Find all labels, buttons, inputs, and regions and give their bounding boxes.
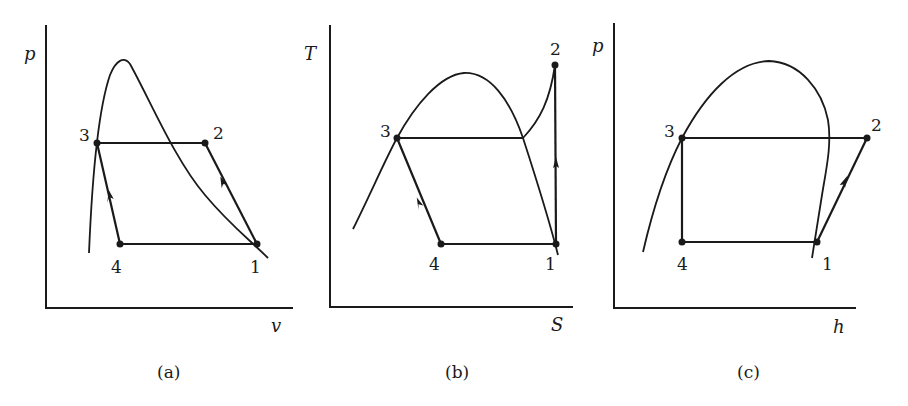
panel-a-point-4 xyxy=(117,241,124,248)
panel-b-point-1 xyxy=(553,241,560,248)
panel-a-label-2: 2 xyxy=(213,123,224,143)
panel-a-y-axis-label: p xyxy=(24,43,36,64)
panel-c-line-1-2 xyxy=(817,138,867,242)
panel-a-label-3: 3 xyxy=(79,125,90,145)
panel-c-y-axis-label: p xyxy=(592,35,604,56)
panel-b-label-1: 1 xyxy=(545,254,556,274)
panel-b-point-2 xyxy=(552,62,559,69)
panel-a-line-1-2 xyxy=(205,143,257,244)
panel-c-point-4 xyxy=(679,239,686,246)
panel-a-label-4: 4 xyxy=(111,257,122,277)
panel-a-pv-diagram: p v 3 2 4 1 (a) xyxy=(24,25,293,382)
panel-b-superheat-curve xyxy=(523,65,555,138)
panel-c-x-axis-label: h xyxy=(833,316,845,337)
panel-c-point-1 xyxy=(814,239,821,246)
panel-a-caption: (a) xyxy=(157,362,180,382)
panel-a-label-1: 1 xyxy=(250,257,261,277)
panel-b-label-2: 2 xyxy=(550,39,561,59)
panel-c-label-1: 1 xyxy=(822,254,833,274)
panel-b-saturation-dome xyxy=(353,73,558,255)
refrigeration-cycle-diagrams: p v 3 2 4 1 (a) T S xyxy=(0,0,908,406)
panel-a-x-axis-label: v xyxy=(271,315,281,336)
panel-c-label-2: 2 xyxy=(871,115,882,135)
panel-b-x-axis-label: S xyxy=(551,314,563,335)
panel-b-point-4 xyxy=(438,241,445,248)
panel-c-label-4: 4 xyxy=(677,254,688,274)
panel-b-line-3-4 xyxy=(397,138,441,244)
panel-a-point-1 xyxy=(254,241,261,248)
panel-c-caption: (c) xyxy=(737,362,760,382)
panel-c-point-3 xyxy=(679,135,686,142)
panel-b-label-3: 3 xyxy=(380,121,391,141)
panel-c-point-2 xyxy=(864,135,871,142)
panel-a-point-3 xyxy=(94,140,101,147)
panel-b-y-axis-label: T xyxy=(304,43,318,64)
panel-b-line-1-2 xyxy=(555,65,556,244)
panel-c-saturation-dome xyxy=(643,61,829,258)
panel-b-axes xyxy=(330,25,573,307)
panel-c-label-3: 3 xyxy=(664,121,675,141)
panel-a-point-2 xyxy=(202,140,209,147)
panel-b-caption: (b) xyxy=(445,362,469,382)
panel-b-point-3 xyxy=(394,135,401,142)
panel-c-ph-diagram: p h 3 2 4 1 (c) xyxy=(592,23,882,382)
panel-b-ts-diagram: T S 3 2 4 1 (b) xyxy=(304,25,573,382)
panel-c-axes xyxy=(614,23,856,308)
panel-b-label-4: 4 xyxy=(429,254,440,274)
